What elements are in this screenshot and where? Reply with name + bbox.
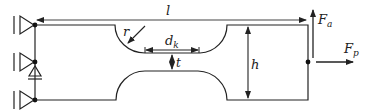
- top-support: [14, 16, 34, 34]
- label-fa: Fa: [317, 12, 332, 29]
- node-force: [306, 60, 311, 65]
- label-dk: dk: [165, 33, 179, 50]
- bottom-support: [14, 91, 34, 109]
- radius-r-pointer: [128, 26, 145, 43]
- node-mid-left: [33, 60, 38, 65]
- label-t: t: [176, 56, 181, 70]
- label-fp: Fp: [343, 41, 359, 58]
- specimen-diagram: l r dk t h Fa Fp: [0, 0, 372, 112]
- label-h: h: [251, 57, 259, 72]
- middle-support: [14, 53, 34, 71]
- diagram-stage: l r dk t h Fa Fp: [0, 0, 372, 112]
- label-l: l: [166, 3, 170, 18]
- label-r: r: [123, 24, 130, 39]
